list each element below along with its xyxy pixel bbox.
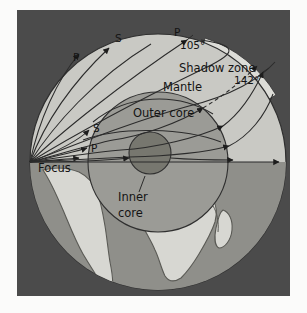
label-mantle: Mantle <box>163 80 202 94</box>
label-inner-core-line2: core <box>118 206 143 220</box>
label-s-upper-left: S <box>115 32 122 44</box>
label-outer-core: Outer core <box>133 106 194 120</box>
label-inner-core-line1: Inner <box>118 190 148 204</box>
inner-core-region <box>129 132 171 174</box>
label-s-lower-left: S <box>93 122 100 134</box>
figure-panel: Focus P S P 105° Shadow zone Mantle 142°… <box>17 10 290 296</box>
diagram-canvas: Focus P S P 105° Shadow zone Mantle 142°… <box>17 10 290 296</box>
label-angle-105: 105° <box>180 39 205 51</box>
label-p-upper-left: P <box>73 51 79 63</box>
label-shadow-zone: Shadow zone <box>179 61 255 75</box>
label-p-lower-left: P <box>91 142 97 154</box>
label-focus: Focus <box>38 161 71 175</box>
label-p-top: P <box>174 26 180 38</box>
label-angle-142: 142° <box>234 74 259 86</box>
